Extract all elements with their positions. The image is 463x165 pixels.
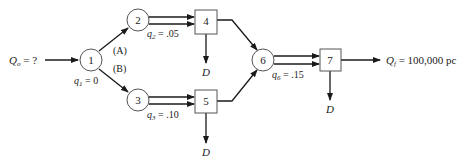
q1-label: q1 = 0 [74,76,98,88]
node-5-label: 5 [196,96,216,107]
input-label: Qo = ? [9,55,37,68]
q3-label: q3 = .10 [147,110,179,122]
demand-label-4: D [202,67,210,78]
flow-diagram: 1 2 3 4 5 6 7 Qo = ? Qf = 100,000 pc (A)… [0,0,463,165]
demand-label-5: D [202,147,210,158]
node-1-label: 1 [81,55,101,66]
q2-label: q2 = .05 [147,29,179,41]
node-2-label: 2 [128,15,148,26]
q6-label: q6 = .15 [272,70,304,82]
node-4-label: 4 [196,16,216,27]
diagram-graphics [0,0,463,165]
node-7-label: 7 [320,55,340,66]
node-3-label: 3 [128,95,148,106]
edge-4-6 [217,20,257,50]
output-label: Qf = 100,000 pc [386,55,457,68]
node-6-label: 6 [253,55,273,66]
branch-b-label: (B) [113,64,126,74]
branch-a-label: (A) [113,46,127,56]
edge-5-6 [217,70,257,101]
demand-label-7: D [326,104,334,115]
